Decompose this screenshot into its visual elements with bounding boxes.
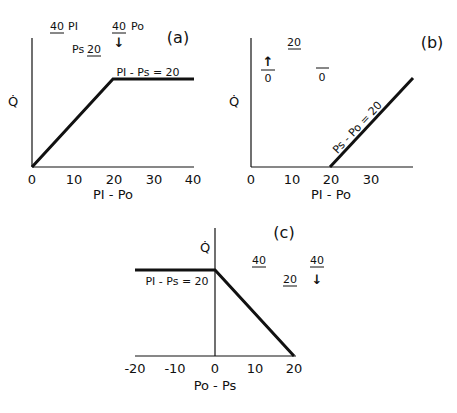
panel-b: 0 10 20 30 PI - Po Q̇ (b) Ps - Po = 20 ↑… [229,33,443,202]
arrow-down-icon: ↓ [312,272,323,287]
y-axis-label: Q̇ [229,94,239,109]
ps-value: 20 [87,43,101,56]
ps-label: Ps [72,43,84,56]
mid-value: 20 [287,36,301,49]
curve-label: PI - Ps = 20 [116,66,179,79]
value-1: 40 [252,254,266,267]
x-axis-label: Po - Ps [194,378,237,393]
x-tick: 20 [106,172,123,187]
arrow-down-icon: ↓ [114,35,125,50]
x-tick: 10 [66,172,83,187]
po-value: 40 [112,20,126,33]
x-tick: 30 [146,172,163,187]
arrow-up-icon: ↑ [263,54,274,69]
curve-b [330,78,413,167]
x-tick: 0 [211,361,219,376]
pi-label: PI [68,20,78,33]
y-axis-label: Q̇ [8,94,18,109]
x-tick: 20 [286,361,303,376]
x-tick: 20 [323,172,340,187]
x-tick: 40 [185,172,202,187]
po-label: Po [131,20,144,33]
curve-label: Ps - Po = 20 [330,99,385,156]
x-tick: -20 [124,361,145,376]
x-tick: -10 [164,361,185,376]
x-tick: 0 [28,172,36,187]
value-2: 20 [283,273,297,286]
x-tick: 0 [247,172,255,187]
panel-label: (a) [167,28,189,47]
curve-a [32,79,194,167]
pi-value: 40 [50,20,64,33]
x-tick: 10 [247,361,264,376]
panel-label: (c) [273,223,294,242]
panel-a: 0 10 20 30 40 PI - Po Q̇ (a) PI - Ps = 2… [8,20,201,202]
value-3: 40 [310,254,324,267]
x-axis-label: PI - Po [93,187,133,202]
y-axis-label: Q̇ [200,240,210,255]
figure: 0 10 20 30 40 PI - Po Q̇ (a) PI - Ps = 2… [0,0,457,413]
right-value: 0 [319,71,326,84]
x-tick: 10 [284,172,301,187]
panel-c: -20 -10 0 10 20 Po - Ps Q̇ (c) PI - Ps =… [124,223,324,393]
x-axis-label: PI - Po [311,187,351,202]
curve-label: PI - Ps = 20 [145,275,208,288]
x-tick: 30 [363,172,380,187]
panel-label: (b) [421,33,444,52]
left-value: 0 [265,72,272,85]
